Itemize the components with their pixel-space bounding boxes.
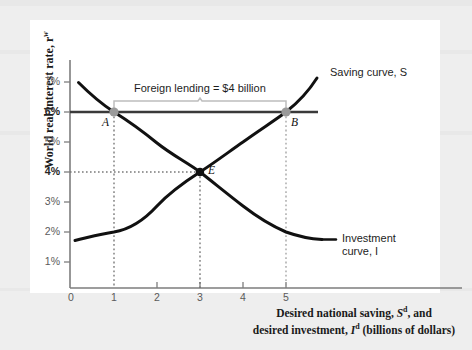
y-tick-label-6: 6% xyxy=(34,105,60,117)
point-e-marker xyxy=(196,168,204,176)
point-b-marker xyxy=(281,107,290,116)
investment-curve-label-line2: curve, I xyxy=(342,245,396,258)
x-axis-caption-line2: desired investment, Id (billions of doll… xyxy=(236,320,472,337)
y-axis-title-superscript: w xyxy=(41,31,50,36)
x-axis-caption-line1: Desired national saving, Sd, and xyxy=(236,303,472,320)
point-b-label: B xyxy=(291,116,298,128)
x-axis-caption-line1-pre: Desired national saving, xyxy=(276,307,397,319)
foreign-lending-bracket xyxy=(114,98,286,108)
x-tick-label-4: 4 xyxy=(233,291,253,303)
y-tick-label-4: 4% xyxy=(34,165,60,177)
investment-curve-label-line1: Investment xyxy=(342,232,396,245)
point-a-label: A xyxy=(102,116,109,128)
x-axis-caption-line2-pre: desired investment, xyxy=(253,324,351,336)
y-tick-label-1: 1% xyxy=(34,255,60,267)
y-tick-label-7: 7% xyxy=(34,75,60,87)
x-axis-caption: Desired national saving, Sd, and desired… xyxy=(236,303,472,337)
x-tick-marks xyxy=(157,282,286,288)
y-tick-label-2: 2% xyxy=(34,225,60,237)
y-tick-marks xyxy=(64,82,70,262)
point-e-label: E xyxy=(208,164,215,176)
x-axis-caption-line2-post: (billions of dollars) xyxy=(360,324,456,336)
saving-curve-path xyxy=(75,78,317,241)
investment-curve-label: Investment curve, I xyxy=(342,232,396,258)
x-tick-label-0: 0 xyxy=(61,291,81,303)
figure-container: World real interest rate, rw 7% 6% 5% 4%… xyxy=(0,0,472,350)
point-a-marker xyxy=(109,107,118,116)
y-tick-label-3: 3% xyxy=(34,195,60,207)
y-axis-title-text: World real interest rate, r xyxy=(42,37,56,169)
x-tick-label-1: 1 xyxy=(104,291,124,303)
foreign-lending-annotation: Foreign lending = $4 billion xyxy=(134,82,266,94)
x-tick-label-3: 3 xyxy=(190,291,210,303)
saving-curve-label: Saving curve, S xyxy=(330,66,407,79)
x-axis-caption-line1-post: , and xyxy=(408,307,432,319)
x-tick-label-5: 5 xyxy=(276,291,296,303)
y-tick-label-5: 5% xyxy=(34,135,60,147)
x-tick-label-2: 2 xyxy=(147,291,167,303)
